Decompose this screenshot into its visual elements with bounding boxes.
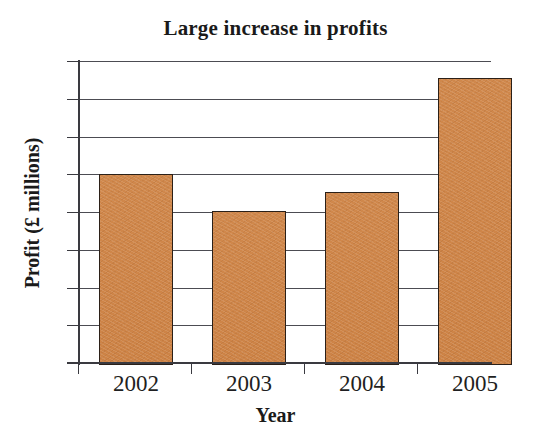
x-axis-label-2004: 2004 (312, 371, 412, 397)
y-axis-tick (67, 174, 79, 175)
x-axis-label-2005: 2005 (425, 371, 525, 397)
y-axis-tick (67, 137, 79, 138)
bar-chart-figure: Large increase in profits Profit (£ mill… (0, 0, 551, 440)
bar-2002 (99, 174, 173, 365)
gridline (78, 99, 491, 100)
plot-area (78, 61, 491, 363)
y-axis-tick (67, 99, 79, 100)
x-axis-title: Year (0, 404, 551, 427)
x-axis-line (67, 362, 492, 364)
y-axis-tick (67, 325, 79, 326)
y-axis-tick (67, 61, 79, 62)
x-axis-tick (417, 363, 418, 374)
x-axis-tick (191, 363, 192, 374)
y-axis-title-container: Profit (£ millions) (12, 60, 52, 365)
x-axis-label-2002: 2002 (86, 371, 186, 397)
gridline (78, 61, 491, 62)
gridline (78, 137, 491, 138)
x-axis-label-2003: 2003 (199, 371, 299, 397)
y-axis-tick (67, 212, 79, 213)
y-axis-title: Profit (£ millions) (21, 137, 44, 288)
bar-2003 (212, 211, 286, 365)
chart-title: Large increase in profits (0, 16, 551, 41)
bar-2005 (438, 78, 512, 365)
x-axis-tick (78, 363, 79, 374)
y-axis-tick (67, 288, 79, 289)
y-axis-tick (67, 250, 79, 251)
bar-2004 (325, 192, 399, 365)
x-axis-tick (304, 363, 305, 374)
